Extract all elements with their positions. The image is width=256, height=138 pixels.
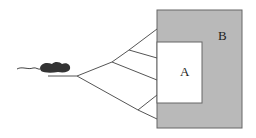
mouse-icon: [17, 62, 70, 73]
label-b: B: [218, 28, 227, 43]
label-a: A: [180, 64, 190, 79]
diagram: B A: [0, 0, 256, 138]
branching-paths: [48, 29, 157, 119]
